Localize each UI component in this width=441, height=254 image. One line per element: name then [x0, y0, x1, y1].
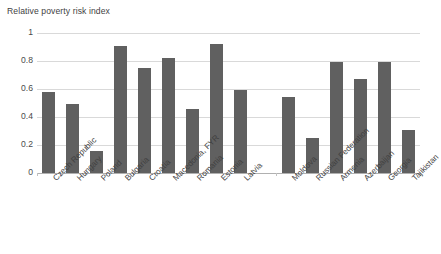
bar — [162, 58, 175, 173]
chart-title: Relative poverty risk index — [7, 6, 110, 16]
y-tick-label: 0.2 — [3, 140, 33, 149]
bar — [42, 92, 55, 173]
y-tick-label: 1 — [3, 28, 33, 37]
x-tickmark — [276, 173, 277, 176]
bars-layer — [37, 33, 420, 173]
y-tick-label: 0.6 — [3, 84, 33, 93]
y-tick-label: 0 — [3, 168, 33, 177]
y-tick-label: 0.4 — [3, 112, 33, 121]
y-tick-label: 0.8 — [3, 56, 33, 65]
bar — [114, 46, 127, 173]
x-axis: Czech RepublicHungaryPolandBulgariaCroat… — [37, 177, 427, 254]
bar — [282, 97, 295, 173]
y-axis: 00.20.40.60.81 — [0, 33, 33, 173]
x-tickmark — [37, 173, 38, 176]
